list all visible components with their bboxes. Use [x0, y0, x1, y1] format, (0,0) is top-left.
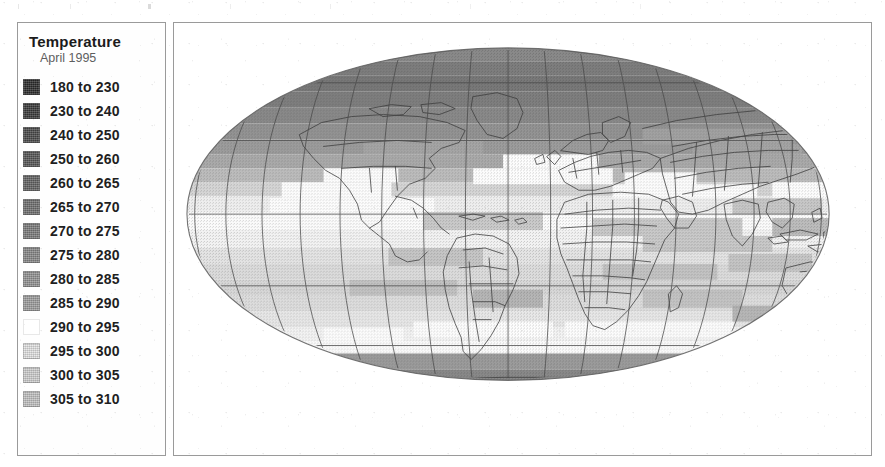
map-panel	[173, 22, 872, 456]
legend-swatch	[23, 367, 40, 383]
legend-swatch	[23, 391, 40, 407]
legend-item: 250 to 260	[18, 147, 165, 171]
legend-swatch	[23, 247, 40, 263]
legend-title: Temperature	[29, 33, 165, 50]
legend-swatch	[23, 319, 40, 335]
legend-label: 305 to 310	[50, 391, 120, 407]
legend-swatch	[23, 343, 40, 359]
legend-swatch	[23, 223, 40, 239]
legend-item: 285 to 290	[18, 291, 165, 315]
legend-label: 295 to 300	[50, 343, 120, 359]
legend-label: 240 to 250	[50, 127, 120, 143]
graticule	[187, 48, 829, 380]
world-temperature-map	[174, 23, 871, 455]
legend-swatch	[23, 103, 40, 119]
legend-item: 295 to 300	[18, 339, 165, 363]
legend-item: 265 to 270	[18, 195, 165, 219]
legend-swatch	[23, 271, 40, 287]
legend-item: 260 to 265	[18, 171, 165, 195]
temperature-raster	[174, 23, 871, 455]
legend-label: 285 to 290	[50, 295, 120, 311]
legend-item: 305 to 310	[18, 387, 165, 411]
legend-item: 240 to 250	[18, 123, 165, 147]
legend-label: 280 to 285	[50, 271, 120, 287]
legend-item: 180 to 230	[18, 75, 165, 99]
legend-panel: Temperature April 1995 180 to 230230 to …	[17, 22, 166, 456]
legend-item: 300 to 305	[18, 363, 165, 387]
legend-label: 275 to 280	[50, 247, 120, 263]
legend-swatch	[23, 151, 40, 167]
legend-label: 230 to 240	[50, 103, 120, 119]
legend-item: 230 to 240	[18, 99, 165, 123]
legend-label: 290 to 295	[50, 319, 120, 335]
legend-item: 270 to 275	[18, 219, 165, 243]
legend-item: 275 to 280	[18, 243, 165, 267]
legend-swatch	[23, 295, 40, 311]
legend-subtitle: April 1995	[40, 51, 165, 66]
legend-item: 290 to 295	[18, 315, 165, 339]
legend-swatch	[23, 175, 40, 191]
legend-label: 265 to 270	[50, 199, 120, 215]
legend-item-list: 180 to 230230 to 240240 to 250250 to 260…	[18, 75, 165, 411]
legend-label: 300 to 305	[50, 367, 120, 383]
legend-label: 260 to 265	[50, 175, 120, 191]
legend-label: 250 to 260	[50, 151, 120, 167]
legend-item: 280 to 285	[18, 267, 165, 291]
legend-swatch	[23, 199, 40, 215]
legend-label: 180 to 230	[50, 79, 120, 95]
legend-label: 270 to 275	[50, 223, 120, 239]
legend-swatch	[23, 127, 40, 143]
scan-top-artifact	[0, 0, 885, 14]
legend-swatch	[23, 79, 40, 95]
